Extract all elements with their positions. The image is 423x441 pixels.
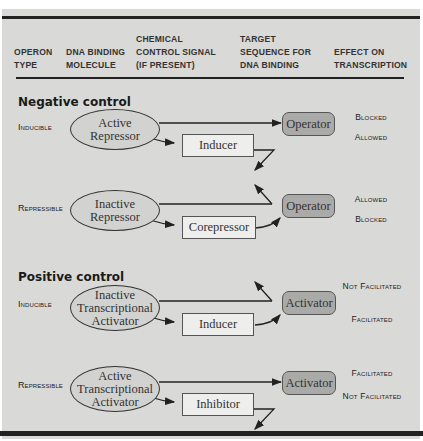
molecule-text: Active (90, 117, 140, 130)
effect-label: Facilitated (342, 367, 402, 379)
target-sequence-box: Activator (282, 291, 336, 315)
dna-binding-molecule-ellipse: Inactive Transcriptional Activator (70, 285, 160, 331)
molecule-text: Transcriptional (77, 302, 153, 315)
control-signal-box: Inducer (182, 313, 254, 336)
control-signal-box: Corepressor (182, 216, 256, 239)
molecule-text: Activator (77, 396, 153, 409)
bottom-rule (0, 431, 423, 436)
effect-label: Allowed (346, 131, 396, 143)
control-signal-box: Inducer (182, 134, 254, 157)
effect-label: Blocked (346, 111, 396, 123)
molecule-text: Repressor (90, 130, 140, 143)
operon-type-label: Inducible (18, 299, 52, 309)
dna-binding-molecule-ellipse: Active Repressor (70, 109, 160, 150)
effect-label: Not Facilitated (342, 280, 402, 292)
dna-binding-molecule-ellipse: Active Transcriptional Activator (70, 366, 160, 412)
operon-type-label: Inducible (18, 122, 52, 132)
effect-label: Allowed (346, 193, 396, 205)
section-title-negative-control: Negative control (18, 95, 131, 109)
molecule-text: Inactive (90, 198, 140, 211)
molecule-text: Active (77, 370, 153, 383)
operon-regulation-table: OPERON TYPE DNA BINDING MOLECULE CHEMICA… (2, 9, 420, 439)
effect-label: Facilitated (342, 313, 402, 325)
molecule-text: Repressor (90, 211, 140, 224)
operon-type-label: Repressible (18, 380, 63, 390)
molecule-text: Activator (77, 315, 153, 328)
molecule-text: Transcriptional (77, 383, 153, 396)
effect-label: Not Facilitated (342, 390, 402, 402)
target-sequence-box: Operator (282, 194, 335, 218)
section-title-positive-control: Positive control (18, 270, 124, 284)
control-signal-box: Inhibitor (182, 393, 254, 416)
molecule-text: Inactive (77, 289, 153, 302)
target-sequence-box: Activator (282, 371, 336, 395)
dna-binding-molecule-ellipse: Inactive Repressor (70, 190, 160, 231)
target-sequence-box: Operator (282, 112, 335, 136)
operon-type-label: Repressible (18, 203, 63, 213)
effect-label: Blocked (346, 213, 396, 225)
